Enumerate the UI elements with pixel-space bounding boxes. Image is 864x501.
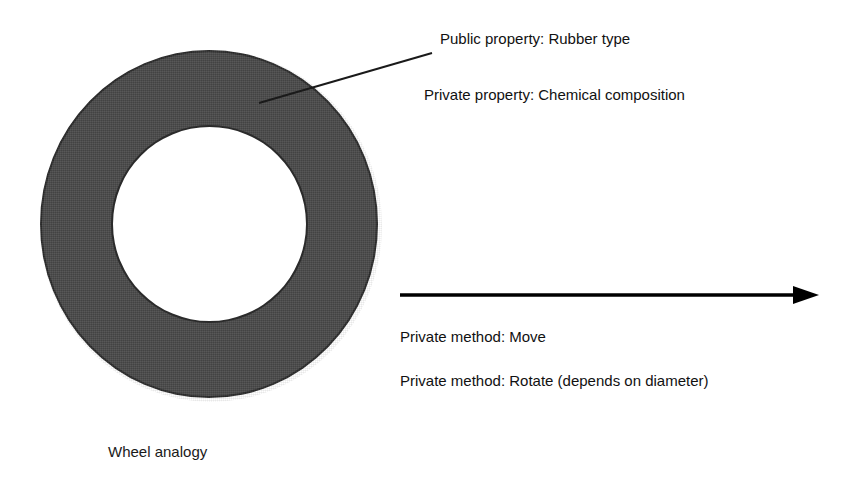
wheel-analogy-shape: [40, 50, 382, 402]
motion-arrow: [400, 286, 819, 304]
label-private-property: Private property: Chemical composition: [424, 86, 685, 104]
motion-arrow-head: [793, 286, 819, 304]
diagram-canvas: Public property: Rubber type Private pro…: [0, 0, 864, 501]
label-private-method-move: Private method: Move: [400, 328, 546, 346]
wheel-analogy-caption: Wheel analogy: [108, 443, 207, 461]
label-public-property: Public property: Rubber type: [440, 30, 630, 48]
wheel-inner-hole: [111, 125, 308, 323]
label-private-method-rotate: Private method: Rotate (depends on diame…: [400, 372, 709, 390]
